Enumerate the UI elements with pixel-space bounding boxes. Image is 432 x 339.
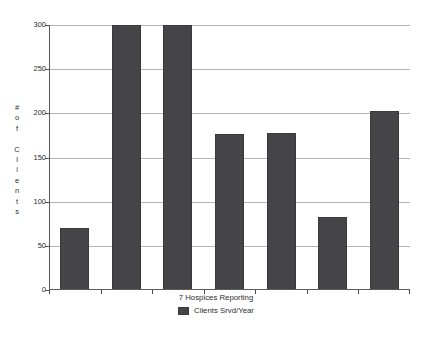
y-axis-tick-label: 200 bbox=[20, 109, 46, 117]
legend-item-label: Clients Srvd/Year bbox=[194, 306, 254, 316]
bar bbox=[215, 134, 244, 290]
bar bbox=[112, 25, 141, 290]
bar bbox=[60, 228, 89, 290]
plot-area bbox=[49, 25, 410, 290]
y-axis-tick-label: 100 bbox=[20, 198, 46, 206]
bar bbox=[267, 133, 296, 290]
x-axis-line bbox=[49, 289, 410, 290]
y-axis-tick-labels: 050100150200250300 bbox=[20, 0, 46, 339]
chart-legend: Clients Srvd/Year bbox=[0, 306, 432, 316]
y-axis-tick-label: 300 bbox=[20, 21, 46, 29]
bar bbox=[163, 25, 192, 290]
y-axis-tick-label: 50 bbox=[20, 242, 46, 250]
legend-swatch-icon bbox=[178, 307, 189, 315]
x-axis-title: 7 Hospices Reporting bbox=[0, 293, 432, 303]
y-axis-tick-label: 250 bbox=[20, 65, 46, 73]
bar-series-clients-srvd-per-year bbox=[49, 25, 410, 290]
y-axis-tick-label: 150 bbox=[20, 154, 46, 162]
y-axis-line bbox=[49, 25, 50, 290]
bar bbox=[318, 217, 347, 290]
bar-chart-figure: # o f C l i e n t s 050100150200250300 7… bbox=[0, 0, 432, 339]
bar bbox=[370, 111, 399, 290]
